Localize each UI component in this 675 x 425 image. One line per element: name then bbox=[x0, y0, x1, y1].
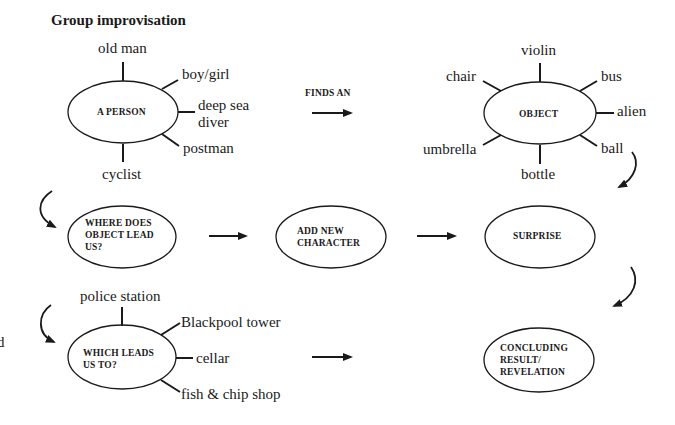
where-does-line1: WHERE DOES bbox=[85, 217, 154, 229]
label-postman: postman bbox=[183, 140, 234, 157]
node-label-object: OBJECT bbox=[519, 108, 558, 120]
node-label-person: A PERSON bbox=[97, 106, 146, 118]
label-boy-girl: boy/girl bbox=[182, 66, 230, 83]
label-ball: ball bbox=[601, 140, 624, 157]
label-deep-sea: deep sea bbox=[198, 97, 249, 114]
label-bus: bus bbox=[601, 68, 622, 85]
concluding-line3: REVELATION bbox=[500, 366, 568, 378]
label-chair: chair bbox=[446, 68, 476, 85]
arrow-label-finds-an: FINDS AN bbox=[305, 88, 351, 98]
spoke-bus bbox=[580, 81, 597, 91]
node-label-which-leads: WHICH LEADS US TO? bbox=[83, 347, 154, 371]
concluding-line1: CONCLUDING bbox=[500, 342, 568, 354]
curved-arrow-into-which-leads bbox=[41, 305, 54, 342]
label-cellar: cellar bbox=[196, 350, 229, 367]
spoke-fish-chip-shop bbox=[161, 380, 180, 392]
label-police-station: police station bbox=[80, 288, 160, 305]
spoke-boy-girl bbox=[162, 80, 178, 89]
label-alien: alien bbox=[617, 103, 646, 120]
which-leads-line2: US TO? bbox=[83, 359, 154, 371]
where-does-line3: US? bbox=[85, 241, 154, 253]
node-label-concluding: CONCLUDING RESULT/ REVELATION bbox=[500, 342, 568, 378]
where-does-line2: OBJECT LEAD bbox=[85, 229, 154, 241]
curved-arrow-into-where-does bbox=[40, 191, 55, 227]
label-fish-chip-shop: fish & chip shop bbox=[181, 386, 281, 403]
spoke-blackpool-tower bbox=[161, 323, 180, 335]
label-old-man: old man bbox=[98, 40, 147, 57]
label-bottle: bottle bbox=[521, 166, 555, 183]
spoke-ball bbox=[580, 135, 597, 146]
curved-arrow-object-to-surprise bbox=[619, 152, 636, 187]
label-blackpool-tower: Blackpool tower bbox=[181, 314, 281, 331]
spoke-postman bbox=[162, 134, 179, 146]
cropped-text-fragment: d bbox=[0, 334, 5, 351]
label-cyclist: cyclist bbox=[102, 166, 141, 183]
diagram-title: Group improvisation bbox=[51, 12, 186, 29]
label-diver: diver bbox=[198, 114, 229, 131]
curved-arrow-surprise-to-concluding bbox=[614, 267, 635, 306]
node-label-add-new-character: ADD NEW CHARACTER bbox=[297, 225, 360, 249]
add-new-line2: CHARACTER bbox=[297, 237, 360, 249]
spoke-umbrella bbox=[483, 135, 501, 145]
node-label-surprise: SURPRISE bbox=[513, 230, 562, 242]
label-violin: violin bbox=[521, 42, 556, 59]
add-new-line1: ADD NEW bbox=[297, 225, 360, 237]
spoke-chair bbox=[483, 81, 501, 91]
label-umbrella: umbrella bbox=[423, 141, 476, 158]
concluding-line2: RESULT/ bbox=[500, 354, 568, 366]
which-leads-line1: WHICH LEADS bbox=[83, 347, 154, 359]
node-label-where-does: WHERE DOES OBJECT LEAD US? bbox=[85, 217, 154, 253]
